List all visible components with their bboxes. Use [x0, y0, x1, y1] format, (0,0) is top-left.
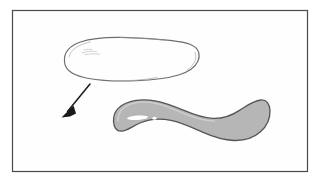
- figure-canvas: [0, 0, 317, 186]
- figure-border: [13, 11, 308, 172]
- white-highlight-dot: [152, 117, 156, 120]
- figure-root: [0, 0, 317, 186]
